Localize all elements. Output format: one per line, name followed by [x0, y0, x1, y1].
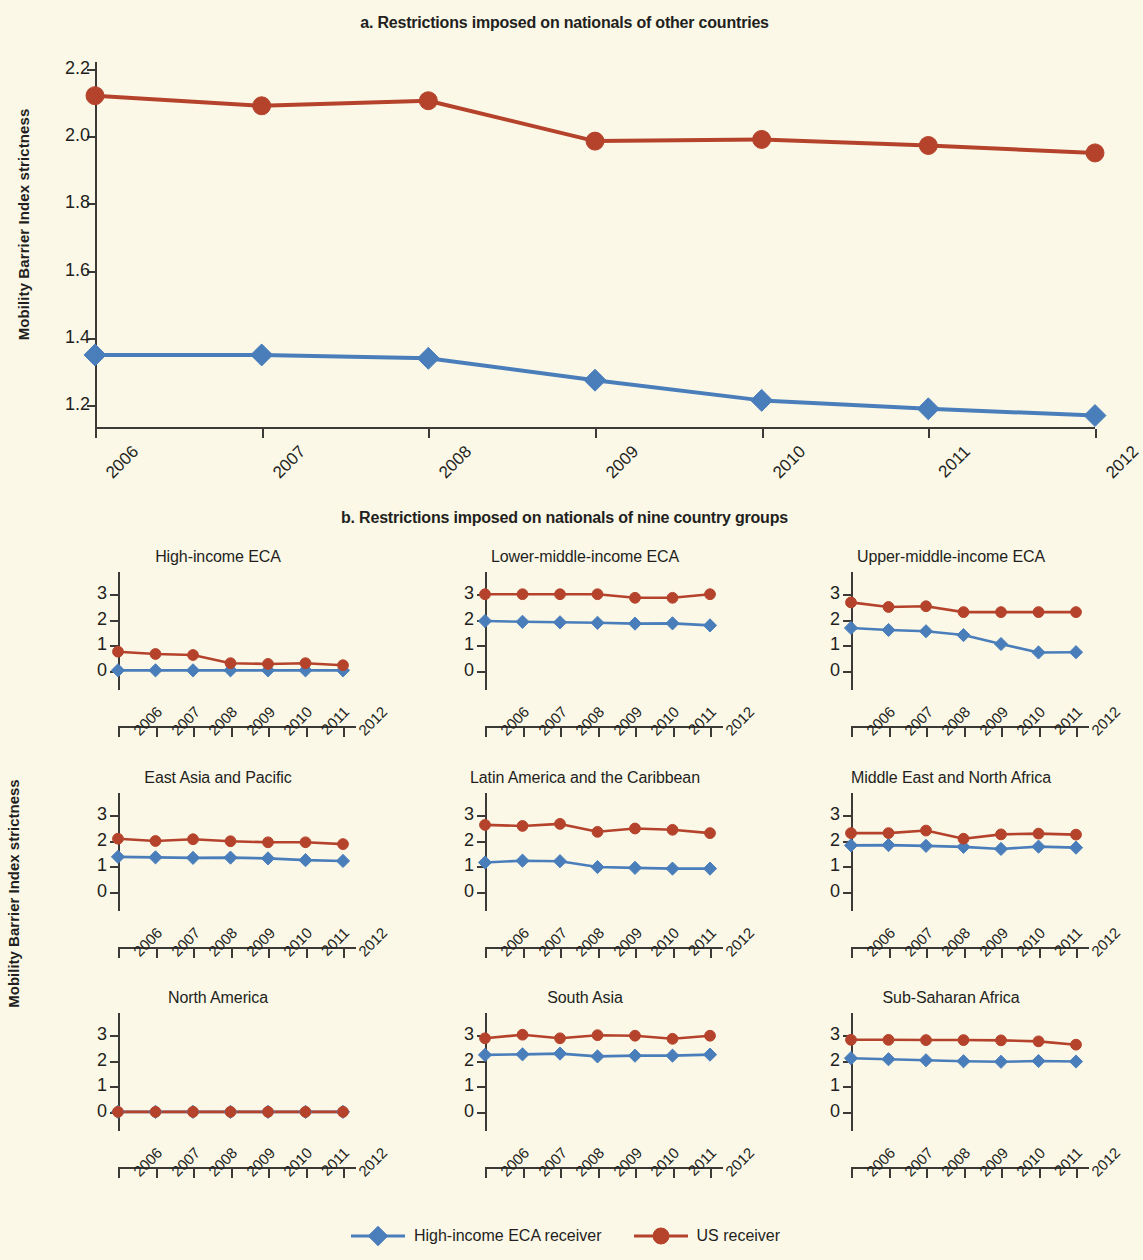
subplot-x-tick-mark — [485, 1169, 487, 1178]
subplot-y-tick-label: 3 — [446, 1024, 474, 1045]
subplot-plot-area: 01232006200720082009201020112012 — [851, 1025, 1076, 1131]
subplot-y-tick-label: 3 — [812, 1024, 840, 1045]
subplot-x-tick-mark — [343, 949, 345, 958]
subplot-x-tick-label: 2012 — [722, 1144, 758, 1180]
subplot-y-tick-label: 2 — [812, 1050, 840, 1071]
subplot-x-tick-label: 2008 — [205, 1144, 241, 1180]
subplot-x-tick-label: 2011 — [317, 1144, 352, 1179]
subplot-y-tick-label: 0 — [812, 1101, 840, 1122]
subplot-x-tick-mark — [193, 1169, 195, 1178]
subplot-x-tick-label: 2006 — [863, 703, 899, 739]
subplot-x-tick-label: 2006 — [863, 1144, 899, 1180]
subplot-x-tick-mark — [635, 949, 637, 958]
subplot-title: East Asia and Pacific — [30, 769, 406, 787]
subplot-x-tick-label: 2011 — [317, 703, 352, 738]
subplot-x-tick-mark — [306, 1169, 308, 1178]
subplot-title: Latin America and the Caribbean — [397, 769, 773, 787]
subplot-title: Middle East and North Africa — [763, 769, 1139, 787]
panel-a-y-tick-label: 1.2 — [44, 394, 90, 415]
subplot-x-tick-mark — [118, 728, 120, 737]
subplot-series-lines — [851, 805, 1076, 911]
subplot-y-tick-mark — [843, 620, 851, 622]
panel-a-y-tick-label: 1.6 — [44, 260, 90, 281]
panel-a-x-tick-mark — [262, 429, 264, 438]
subplot-x-tick-label: 2011 — [684, 924, 719, 959]
subplot-high-income-eca: High-income ECA0123200620072008200920102… — [30, 548, 406, 768]
subplot-x-tick-mark — [1001, 728, 1003, 737]
subplot-y-tick-label: 3 — [812, 583, 840, 604]
subplot-y-tick-mark — [843, 866, 851, 868]
subplot-x-tick-mark — [485, 949, 487, 958]
subplot-x-tick-mark — [118, 1169, 120, 1178]
subplot-x-tick-label: 2009 — [609, 703, 645, 739]
subplot-y-tick-label: 2 — [446, 830, 474, 851]
subplot-y-tick-label: 0 — [79, 1101, 107, 1122]
subplot-x-tick-mark — [889, 1169, 891, 1178]
subplot-y-tick-label: 3 — [79, 583, 107, 604]
subplot-x-tick-label: 2006 — [497, 924, 533, 960]
subplot-y-tick-mark — [843, 594, 851, 596]
subplot-title: Lower-middle-income ECA — [397, 548, 773, 566]
subplot-x-tick-mark — [560, 949, 562, 958]
subplot-y-tick-label: 3 — [446, 804, 474, 825]
subplot-x-tick-mark — [1039, 1169, 1041, 1178]
subplot-y-tick-label: 0 — [79, 660, 107, 681]
subplot-y-tick-mark — [843, 1086, 851, 1088]
subplot-x-tick-mark — [926, 728, 928, 737]
subplot-y-tick-mark — [843, 815, 851, 817]
subplot-y-tick-label: 0 — [812, 660, 840, 681]
subplot-x-tick-mark — [710, 1169, 712, 1178]
subplot-x-tick-label: 2007 — [167, 924, 203, 960]
subplot-x-tick-mark — [560, 1169, 562, 1178]
subplot-plot-area: 01232006200720082009201020112012 — [851, 584, 1076, 690]
panel-a-x-tick-mark — [428, 429, 430, 438]
subplot-x-tick-label: 2008 — [938, 924, 974, 960]
subplot-y-tick-label: 3 — [446, 583, 474, 604]
subplot-x-tick-label: 2007 — [900, 924, 936, 960]
subplot-y-tick-mark — [477, 815, 485, 817]
subplot-x-tick-label: 2008 — [205, 703, 241, 739]
subplot-series-lines — [851, 1025, 1076, 1131]
diamond-marker-icon — [349, 1226, 407, 1246]
panel-a-title: a. Restrictions imposed on nationals of … — [0, 14, 1129, 32]
panel-a-x-tick-mark — [95, 429, 97, 438]
subplot-x-tick-label: 2012 — [1088, 1144, 1124, 1180]
subplot-x-tick-label: 2009 — [609, 1144, 645, 1180]
subplot-plot-area: 01232006200720082009201020112012 — [485, 584, 710, 690]
subplot-y-tick-mark — [110, 1035, 118, 1037]
subplot-x-tick-mark — [964, 1169, 966, 1178]
subplot-series-lines — [851, 584, 1076, 690]
subplot-y-tick-label: 1 — [446, 634, 474, 655]
panel-a-y-tick-label: 1.8 — [44, 192, 90, 213]
subplot-x-tick-mark — [560, 728, 562, 737]
subplot-y-tick-mark — [110, 1086, 118, 1088]
subplot-x-tick-label: 2012 — [355, 1144, 391, 1180]
subplot-x-tick-mark — [1001, 949, 1003, 958]
subplot-x-tick-label: 2007 — [167, 1144, 203, 1180]
subplot-series-lines — [118, 1025, 343, 1131]
panel-a-x-tick-mark — [762, 429, 764, 438]
subplot-y-tick-mark — [110, 620, 118, 622]
subplot-plot-area: 01232006200720082009201020112012 — [118, 584, 343, 690]
subplot-y-tick-label: 3 — [79, 804, 107, 825]
subplot-plot-area: 01232006200720082009201020112012 — [118, 1025, 343, 1131]
subplot-series-lines — [118, 805, 343, 911]
subplot-y-tick-mark — [110, 594, 118, 596]
subplot-x-tick-label: 2012 — [1088, 924, 1124, 960]
subplot-x-tick-label: 2011 — [1050, 1144, 1085, 1179]
subplot-x-tick-label: 2006 — [130, 924, 166, 960]
subplot-y-tick-label: 1 — [79, 634, 107, 655]
subplot-series-lines — [118, 584, 343, 690]
subplot-title: North America — [30, 989, 406, 1007]
subplot-x-tick-mark — [635, 1169, 637, 1178]
subplot-x-tick-mark — [635, 728, 637, 737]
subplot-x-tick-label: 2012 — [722, 924, 758, 960]
subplot-x-tick-mark — [268, 728, 270, 737]
subplot-x-tick-label: 2010 — [1013, 924, 1049, 960]
panel-a-x-tick-label: 2006 — [102, 442, 143, 483]
subplot-y-tick-label: 0 — [446, 881, 474, 902]
subplot-x-tick-label: 2010 — [1013, 1144, 1049, 1180]
subplot-x-tick-mark — [1001, 1169, 1003, 1178]
subplot-y-tick-mark — [477, 671, 485, 673]
subplot-title: Upper-middle-income ECA — [763, 548, 1139, 566]
